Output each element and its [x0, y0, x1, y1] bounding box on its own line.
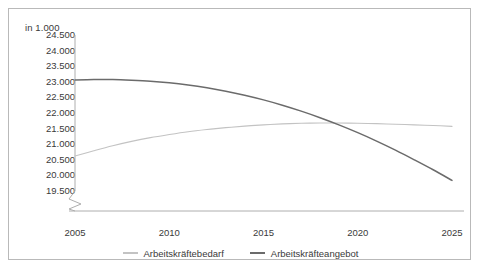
legend-entry[interactable]: Arbeitskräftebedarf [123, 248, 224, 259]
legend-entry[interactable]: Arbeitskräfteangebot [250, 248, 359, 259]
axis-lines [69, 35, 464, 211]
x-axis-tick-labels: 20052010201520202025 [9, 227, 472, 241]
legend-label: Arbeitskräfteangebot [271, 248, 359, 259]
x-axis-tick-label: 2005 [53, 227, 97, 238]
chart-legend: ArbeitskräftebedarfArbeitskräfteangebot [9, 245, 472, 261]
legend-line-icon [123, 252, 138, 254]
data-series-group [75, 80, 452, 181]
x-axis-tick-label: 2020 [336, 227, 380, 238]
legend-line-icon [250, 252, 265, 254]
legend-label: Arbeitskräftebedarf [144, 248, 224, 259]
bottom-caption-strip [8, 266, 471, 274]
x-axis-tick-label: 2010 [147, 227, 191, 238]
x-axis-tick-label: 2015 [242, 227, 286, 238]
series-line [75, 80, 452, 181]
series-line [75, 123, 452, 156]
plot-area [9, 9, 472, 261]
chart-frame: in 1.000 24.50024.00023.50023.00022.5002… [8, 8, 471, 260]
x-axis-tick-label: 2025 [430, 227, 474, 238]
screenshot-page: in 1.000 24.50024.00023.50023.00022.5002… [0, 0, 488, 277]
axis-break-symbol [69, 191, 81, 211]
